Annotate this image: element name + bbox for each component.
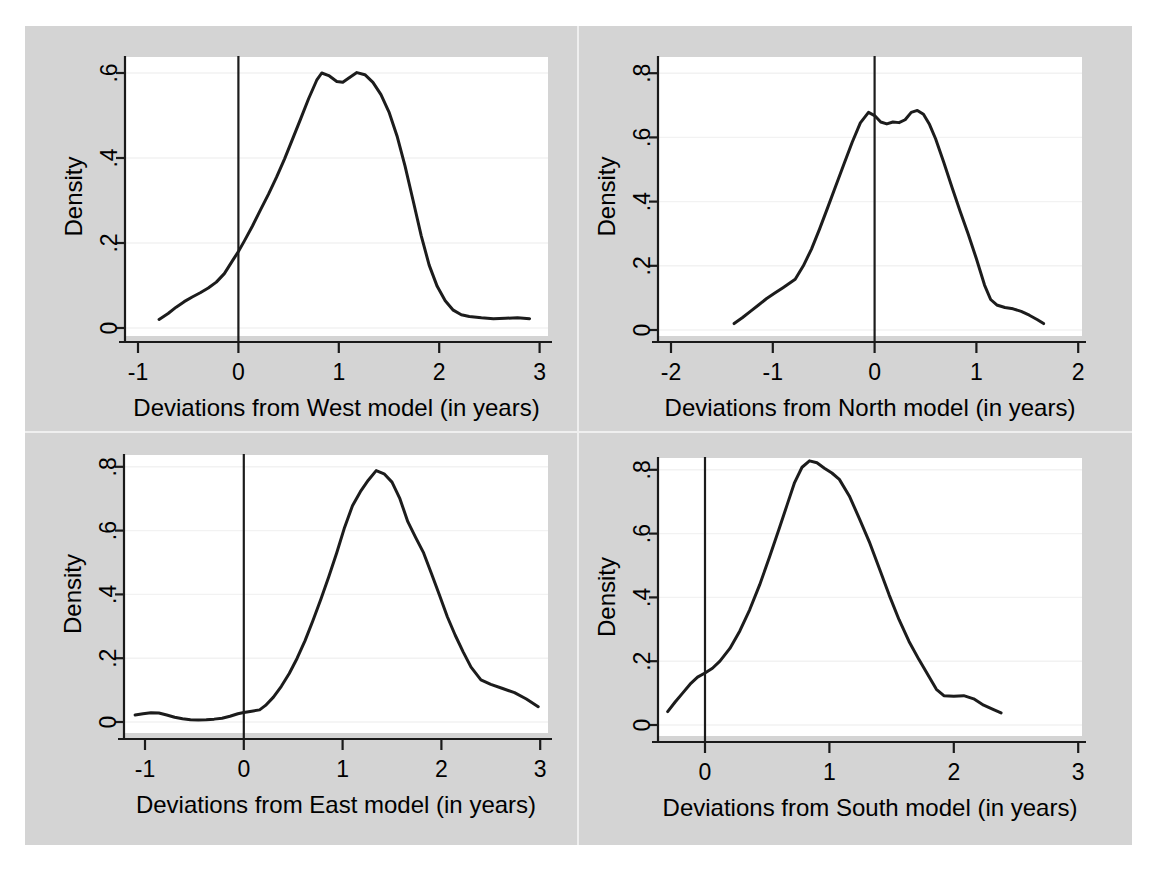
- x-tick-label-west-4: 3: [533, 359, 546, 385]
- x-axis-title-west: Deviations from West model (in years): [133, 394, 539, 421]
- x-tick-label-south-3: 3: [1072, 759, 1085, 785]
- y-tick-label-west-2: .4: [96, 148, 122, 167]
- panel-background-north: [658, 57, 1082, 336]
- x-tick-label-east-4: 3: [534, 756, 547, 782]
- x-axis-title-south: Deviations from South model (in years): [663, 794, 1078, 821]
- x-tick-label-east-1: 0: [237, 756, 250, 782]
- four-panel-density-figure: 0.2.4.6-10123DensityDeviations from West…: [0, 0, 1157, 878]
- x-tick-label-east-3: 2: [435, 756, 448, 782]
- panel-background-west: [125, 57, 548, 336]
- y-tick-label-south-2: .4: [629, 588, 655, 607]
- x-tick-label-west-2: 1: [332, 359, 345, 385]
- y-tick-label-south-4: .8: [629, 460, 655, 479]
- x-tick-label-south-1: 1: [823, 759, 836, 785]
- x-tick-label-south-2: 2: [947, 759, 960, 785]
- y-tick-label-east-1: .2: [95, 649, 121, 668]
- x-axis-title-north: Deviations from North model (in years): [665, 394, 1076, 421]
- panel-north: 0.2.4.6.8-2-1012DensityDeviations from N…: [593, 56, 1087, 421]
- panel-east: 0.2.4.6.8-10123DensityDeviations from Ea…: [59, 454, 553, 818]
- x-tick-label-west-0: -1: [128, 359, 148, 385]
- y-tick-label-north-2: .4: [629, 192, 655, 211]
- x-tick-label-east-0: -1: [135, 756, 155, 782]
- x-tick-label-west-1: 0: [232, 359, 245, 385]
- figure-root: 0.2.4.6-10123DensityDeviations from West…: [0, 0, 1157, 878]
- x-tick-label-north-3: 1: [970, 359, 983, 385]
- y-tick-label-west-1: .2: [96, 233, 122, 252]
- y-tick-label-east-3: .6: [95, 521, 121, 540]
- x-tick-label-north-1: -1: [763, 359, 783, 385]
- x-tick-label-north-4: 2: [1072, 359, 1085, 385]
- y-tick-label-east-0: 0: [95, 716, 121, 729]
- y-tick-label-south-3: .6: [629, 524, 655, 543]
- y-axis-title-west: Density: [60, 156, 87, 236]
- panel-south: 0.2.4.6.80123DensityDeviations from Sout…: [593, 457, 1087, 821]
- panel-west: 0.2.4.6-10123DensityDeviations from West…: [60, 56, 553, 421]
- y-axis-title-north: Density: [593, 156, 620, 236]
- y-tick-label-north-1: .2: [629, 256, 655, 275]
- y-tick-label-south-1: .2: [629, 652, 655, 671]
- y-tick-label-south-0: 0: [629, 719, 655, 732]
- x-tick-label-south-0: 0: [699, 759, 712, 785]
- y-axis-title-east: Density: [59, 554, 86, 634]
- x-axis-title-east: Deviations from East model (in years): [136, 791, 536, 818]
- x-tick-label-north-0: -2: [661, 359, 681, 385]
- y-tick-label-east-2: .4: [95, 585, 121, 604]
- y-tick-label-east-4: .8: [95, 457, 121, 476]
- y-tick-label-west-3: .6: [96, 63, 122, 82]
- y-tick-label-north-4: .8: [629, 64, 655, 83]
- y-tick-label-west-0: 0: [96, 322, 122, 335]
- y-tick-label-north-3: .6: [629, 128, 655, 147]
- x-tick-label-east-2: 1: [336, 756, 349, 782]
- x-tick-label-west-3: 2: [433, 359, 446, 385]
- y-axis-title-south: Density: [593, 557, 620, 637]
- x-tick-label-north-2: 0: [868, 359, 881, 385]
- y-tick-label-north-0: 0: [629, 324, 655, 337]
